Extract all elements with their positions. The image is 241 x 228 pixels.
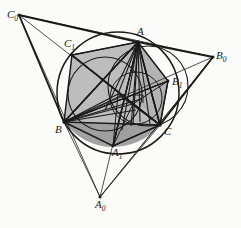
point-label-A: A xyxy=(137,26,144,37)
point-label-C: C xyxy=(164,126,171,137)
point-label-C0: C0 xyxy=(7,9,18,23)
dot-B0 xyxy=(212,56,215,59)
dot-C1 xyxy=(71,54,74,57)
dot-B1 xyxy=(167,80,170,83)
chord-B0-A xyxy=(138,42,213,57)
dot-B xyxy=(62,120,65,123)
point-label-B0: B0 xyxy=(216,50,226,64)
dot-A xyxy=(136,40,139,43)
point-label-C1: C1 xyxy=(64,38,75,52)
geometry-figure: A B C A1 B1 C1 A0 B0 C0 xyxy=(0,0,241,228)
chord-C0-B-through-C1 xyxy=(19,15,64,122)
point-label-B: B xyxy=(55,124,62,135)
point-label-A0: A0 xyxy=(95,199,105,213)
chord-B0-C-through-B1 xyxy=(160,57,213,125)
point-label-B1: B1 xyxy=(172,76,182,90)
dot-C xyxy=(158,123,161,126)
geometry-canvas xyxy=(0,0,241,228)
point-label-A1: A1 xyxy=(112,147,122,161)
